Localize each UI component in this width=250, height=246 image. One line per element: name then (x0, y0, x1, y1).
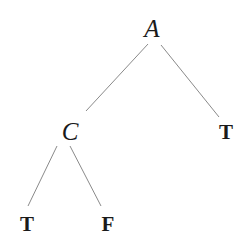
edge-a-to-t (161, 45, 219, 117)
leaf-true-bottom-left: T (20, 214, 34, 235)
leaf-true-right: T (219, 122, 233, 143)
leaf-false-bottom: F (102, 214, 115, 235)
edge-a-to-c (86, 44, 148, 111)
edge-c-to-t (28, 146, 57, 206)
node-c: C (62, 119, 79, 144)
node-a: A (144, 16, 159, 41)
tree-edges (0, 0, 250, 246)
edge-c-to-f (70, 146, 101, 206)
